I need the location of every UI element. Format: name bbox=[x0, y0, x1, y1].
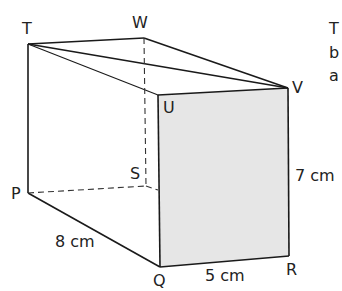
side-text-line-2: b bbox=[329, 45, 339, 61]
dimension-RV: 7 cm bbox=[295, 168, 335, 184]
side-text-line-1: T bbox=[329, 21, 339, 37]
dimension-PQ: 8 cm bbox=[55, 234, 95, 250]
vertex-label-S: S bbox=[130, 166, 140, 182]
vertex-label-T: T bbox=[22, 21, 32, 37]
vertex-label-Q: Q bbox=[153, 273, 166, 289]
vertex-label-P: P bbox=[11, 186, 21, 202]
vertex-label-V: V bbox=[292, 80, 303, 96]
vertex-label-W: W bbox=[132, 15, 148, 31]
shaded-face-QRVU bbox=[158, 88, 289, 267]
vertex-label-R: R bbox=[286, 262, 297, 278]
side-text-line-3: a bbox=[329, 68, 339, 84]
dimension-QR: 5 cm bbox=[205, 268, 245, 284]
cuboid-diagram bbox=[0, 0, 342, 291]
vertex-label-U: U bbox=[163, 100, 175, 116]
